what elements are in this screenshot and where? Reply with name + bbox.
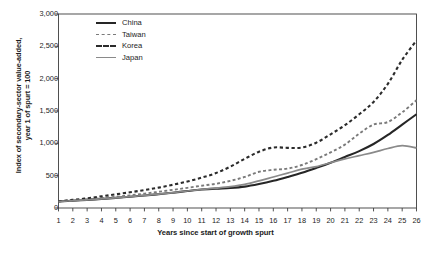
legend-item-label: China: [122, 17, 142, 29]
x-axis-title: Years since start of growth spurt: [0, 228, 431, 237]
legend-item-label: Taiwan: [122, 29, 146, 41]
legend-swatch-icon: [96, 53, 116, 62]
x-tick-label: 26: [408, 216, 426, 225]
chart-legend: ChinaTaiwanKoreaJapan: [96, 17, 146, 63]
legend-swatch-icon: [96, 30, 116, 39]
legend-swatch-icon: [96, 18, 116, 27]
legend-item-label: Korea: [122, 40, 142, 52]
legend-item-japan[interactable]: Japan: [96, 52, 146, 64]
chart-figure: Index of secondary-sector value-added, y…: [0, 0, 431, 256]
x-axis-tick-labels: 1234567891011121314151617181920212223242…: [0, 210, 431, 226]
legend-item-taiwan[interactable]: Taiwan: [96, 29, 146, 41]
legend-item-korea[interactable]: Korea: [96, 40, 146, 52]
legend-item-label: Japan: [122, 52, 143, 64]
legend-swatch-icon: [96, 41, 116, 50]
series-line-korea: [59, 41, 417, 202]
series-line-japan: [59, 146, 417, 202]
series-line-china: [59, 114, 417, 201]
legend-item-china[interactable]: China: [96, 17, 146, 29]
figure-caption: [6, 246, 426, 255]
